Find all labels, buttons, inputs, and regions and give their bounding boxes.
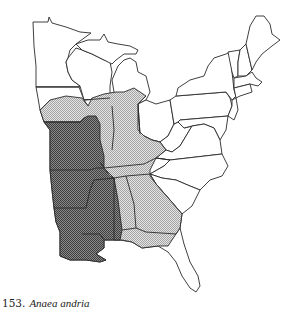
figure-number: 153.: [2, 297, 25, 309]
state-new-york: [176, 52, 236, 100]
range-map: [0, 0, 293, 295]
figure-caption: 153.Anaea andria: [2, 297, 90, 309]
state-maine: [246, 16, 280, 70]
species-name: Anaea andria: [29, 297, 89, 309]
